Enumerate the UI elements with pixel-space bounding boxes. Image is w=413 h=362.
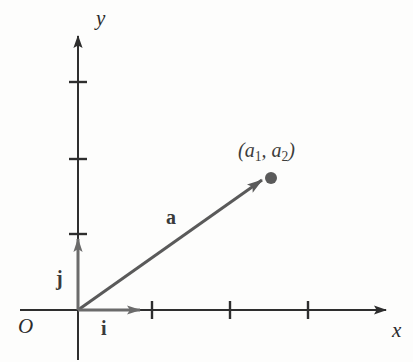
y-axis-label: y xyxy=(96,8,105,29)
x-axis-label: x xyxy=(392,320,401,341)
vector-a-arrow xyxy=(78,180,262,310)
point-label-comma: , xyxy=(261,139,271,161)
point-coordinates-label: (a1, a2) xyxy=(238,140,295,164)
terminal-point-dot xyxy=(265,172,277,184)
point-label-close-paren: ) xyxy=(288,139,295,161)
point-label-a2-base: a xyxy=(271,139,281,161)
vector-diagram xyxy=(0,0,413,362)
vector-a-label: a xyxy=(166,207,176,227)
point-label-a1-base: a xyxy=(245,139,255,161)
origin-label: O xyxy=(18,316,33,337)
unit-vector-i-label: i xyxy=(101,318,107,338)
point-label-open-paren: ( xyxy=(238,139,245,161)
unit-vector-j-label: j xyxy=(56,268,63,288)
